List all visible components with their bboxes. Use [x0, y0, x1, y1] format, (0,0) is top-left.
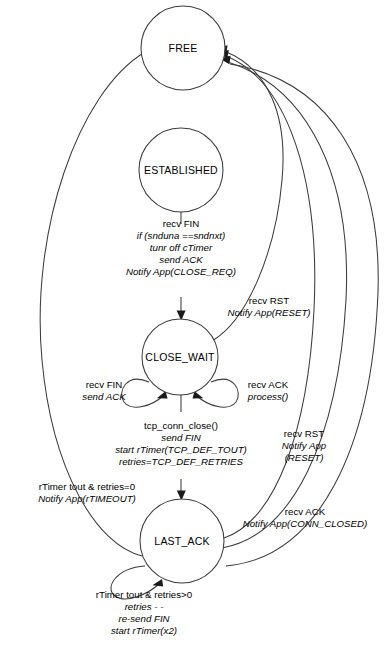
state-label-close-wait: CLOSE_WAIT: [145, 351, 215, 363]
transition-label-close-wait-self-ack: recv ACK process(): [226, 379, 310, 403]
transition-label-last-ack-to-free-rst: recv RST Notify App (RESET): [262, 428, 346, 464]
arrow-head-last-ack-self: [152, 579, 163, 587]
state-node-close-wait[interactable]: CLOSE_WAIT: [142, 319, 218, 395]
transition-label-close-wait-to-last-ack: tcp_conn_close() send FIN start rTimer(T…: [72, 420, 290, 468]
transition-label-last-ack-self-retry: rTimer tout & retries>0 retries - - re-s…: [56, 589, 232, 637]
state-node-established[interactable]: ESTABLISHED: [139, 128, 223, 212]
state-label-last-ack: LAST_ACK: [154, 535, 209, 547]
state-label-established: ESTABLISHED: [144, 164, 218, 176]
transition-label-established-to-close-wait: recv FIN if (snduna ==sndnxt) tunr off c…: [78, 218, 284, 278]
transition-label-last-ack-to-free-timeout: rTimer tout & retries=0 Notify App(rTIME…: [10, 481, 164, 505]
transition-label-last-ack-to-free-ack: recv ACK Notify App(CONN_CLOSED): [226, 506, 384, 530]
state-node-last-ack[interactable]: LAST_ACK: [140, 499, 224, 583]
state-label-free: FREE: [169, 42, 198, 54]
state-diagram: FREE ESTABLISHED CLOSE_WAIT LAST_ACK rec…: [0, 0, 385, 654]
state-machine-canvas: FREE ESTABLISHED CLOSE_WAIT LAST_ACK: [0, 0, 385, 654]
state-node-free[interactable]: FREE: [141, 6, 225, 90]
transition-label-close-wait-to-free-rst: recv RST Notify App(RESET): [205, 295, 333, 319]
transition-label-close-wait-self-fin: recv FIN send ACK: [62, 379, 146, 403]
